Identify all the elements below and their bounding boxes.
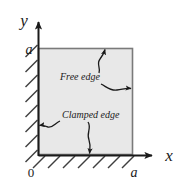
y-axis-label: y: [18, 11, 28, 30]
x-tick-label-a: a: [131, 165, 138, 180]
diagram-canvas: y x a a 0 Free edge Clamped edge: [0, 0, 181, 190]
x-axis-label: x: [164, 146, 173, 165]
plate-region: [39, 49, 133, 155]
y-tick-label-a: a: [26, 42, 33, 57]
origin-label: 0: [28, 165, 35, 180]
left-edge-hatching: [26, 45, 38, 162]
free-edge-label: Free edge: [59, 71, 100, 82]
plate-boundary-conditions-figure: y x a a 0 Free edge Clamped edge: [0, 0, 181, 190]
bottom-edge-hatching: [33, 156, 134, 168]
clamped-edge-label: Clamped edge: [62, 109, 120, 120]
